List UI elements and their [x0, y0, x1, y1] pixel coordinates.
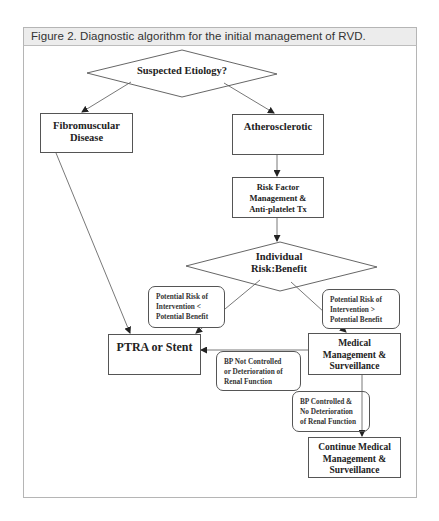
individual-risk-line1: Individual — [226, 251, 332, 263]
individual-risk-line2: Risk:Benefit — [226, 263, 332, 275]
continue-line2: Management & — [309, 454, 400, 466]
atherosclerotic-label: Atherosclerotic — [233, 121, 323, 133]
fibromuscular-line1: Fibromuscular — [41, 120, 132, 132]
edge-label-bp-controlled: BP Controlled & No Deterioration of Rena… — [292, 391, 370, 432]
risk-greater-line1: Potential Risk of — [330, 295, 395, 305]
risk-less-line1: Potential Risk of — [156, 292, 220, 302]
risk-less-line2: Intervention < — [156, 302, 220, 312]
continue-line1: Continue Medical — [309, 442, 400, 454]
risk-factor-line1: Risk Factor — [233, 182, 323, 193]
bp-controlled-line2: No Deterioration — [300, 407, 365, 417]
edge-fibromuscular-to-ptra — [56, 153, 130, 333]
bp-controlled-line3: of Renal Function — [300, 417, 365, 427]
edge-label-risk-greater-than-benefit: Potential Risk of Intervention > Potenti… — [322, 289, 400, 329]
individual-risk-text: Individual Risk:Benefit — [226, 251, 332, 275]
edge-label-risk-less-than-benefit: Potential Risk of Intervention < Potenti… — [148, 286, 225, 328]
medical-mgmt-line1: Medical — [309, 338, 400, 350]
node-fibromuscular-disease: Fibromuscular Disease — [40, 113, 133, 153]
bp-not-controlled-line3: Renal Function — [224, 377, 296, 387]
ptra-label: PTRA or Stent — [109, 341, 200, 354]
risk-factor-line3: Anti-platelet Tx — [233, 204, 323, 215]
bp-not-controlled-line2: or Deterioration of — [224, 367, 296, 377]
risk-greater-line3: Potential Benefit — [330, 315, 395, 325]
risk-less-line3: Potential Benefit — [156, 312, 220, 322]
medical-mgmt-line2: Management & — [309, 350, 400, 362]
edge-etiology-to-fibromuscular — [82, 82, 131, 112]
risk-greater-line2: Intervention > — [330, 305, 395, 315]
bp-controlled-line1: BP Controlled & — [300, 397, 365, 407]
edge-etiology-to-atherosclerotic — [224, 83, 274, 113]
node-continue-medical-management: Continue Medical Management & Surveillan… — [308, 437, 401, 478]
node-ptra-or-stent: PTRA or Stent — [108, 334, 201, 375]
edge-label-bp-not-controlled: BP Not Controlled or Deterioration of Re… — [216, 351, 301, 391]
continue-line3: Surveillance — [309, 465, 400, 477]
suspected-etiology-label: Suspected Etiology? — [137, 65, 227, 76]
medical-mgmt-line3: Surveillance — [309, 361, 400, 373]
bp-not-controlled-line1: BP Not Controlled — [224, 357, 296, 367]
suspected-etiology-text: Suspected Etiology? — [117, 65, 247, 76]
node-risk-factor-management: Risk Factor Management & Anti-platelet T… — [232, 177, 324, 218]
risk-factor-line2: Management & — [233, 193, 323, 204]
node-atherosclerotic: Atherosclerotic — [232, 114, 324, 155]
fibromuscular-line2: Disease — [41, 132, 132, 144]
node-medical-management: Medical Management & Surveillance — [308, 333, 401, 375]
